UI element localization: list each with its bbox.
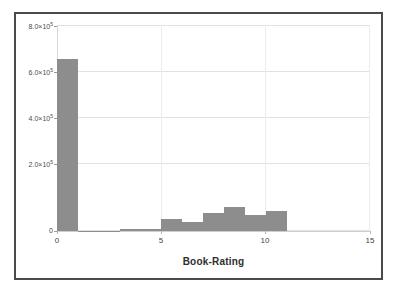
x-tick-label-10: 10	[253, 236, 277, 246]
x-tick-mark-15	[370, 231, 371, 234]
x-tick-label-0: 0	[45, 236, 69, 246]
chart-screenshot: 8.0×105 6.0×105 4.0×105 2.0×105 0 0 5 10…	[0, 0, 398, 292]
x-tick-mark-5	[161, 231, 162, 234]
x-tick-label-15: 15	[358, 236, 382, 246]
plot-canvas: 8.0×105 6.0×105 4.0×105 2.0×105 0 0 5 10…	[0, 0, 398, 292]
x-axis-tick-labels: 0 5 10 15	[0, 0, 398, 292]
x-tick-label-5: 5	[149, 236, 173, 246]
x-tick-mark-10	[265, 231, 266, 234]
x-axis-title: Book-Rating	[57, 256, 370, 267]
x-tick-mark-0	[57, 231, 58, 234]
